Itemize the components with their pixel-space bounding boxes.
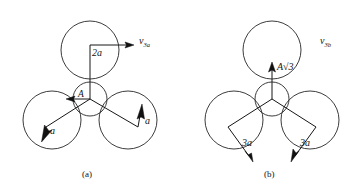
panel-b-caption: (b) (264, 169, 275, 179)
panel-a-vertex-label: A (77, 89, 84, 99)
panel-b: A√3 3a 3a v3b (b) (205, 21, 339, 179)
panel-a-top-arrow-head (125, 42, 134, 48)
panel-b-velocity-subscript: 3b (323, 41, 331, 48)
panel-b-left-spoke (228, 99, 272, 127)
panel-a: A 2a a a v3a (a) (23, 21, 157, 179)
panel-b-left-vector-label: 3a (241, 137, 252, 148)
panel-a-top-vector-label: 2a (92, 47, 102, 58)
panel-b-left-circle (205, 91, 263, 149)
panel-a-left-vector-label: a (50, 125, 55, 136)
panel-b-right-spoke (272, 99, 316, 127)
panel-a-left-spoke (46, 99, 90, 127)
panel-a-right-arrow-head (137, 104, 145, 119)
panel-b-left-arrow-head (245, 151, 253, 162)
figure-container: A 2a a a v3a (a) (0, 0, 364, 190)
panel-a-right-vector-label: a (145, 115, 150, 126)
panel-a-vertexA-arrow-head (66, 96, 75, 102)
panel-b-right-arrow-head (291, 149, 299, 162)
panel-b-right-circle (281, 91, 339, 149)
panel-b-right-vector-label: 3a (299, 137, 310, 148)
figure-svg-canvas: A 2a a a v3a (a) (0, 0, 364, 190)
panel-b-top-vector-label: A√3 (276, 61, 294, 72)
panel-a-velocity-label: v3a (139, 35, 150, 48)
panel-a-right-spoke (90, 99, 138, 127)
panel-a-velocity-subscript: 3a (142, 41, 150, 48)
panel-b-velocity-label: v3b (320, 35, 332, 48)
panel-a-caption: (a) (82, 169, 92, 179)
